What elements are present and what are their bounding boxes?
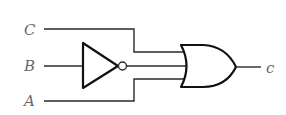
not-gate-bubble (119, 62, 127, 70)
wire-c (44, 29, 186, 52)
input-label-a: A (22, 92, 35, 110)
circuit-diagram: C B A c (0, 0, 286, 115)
not-gate-triangle (83, 43, 118, 88)
input-label-b: B (23, 57, 35, 75)
input-label-c: C (24, 21, 36, 39)
or-gate (181, 45, 236, 87)
not-gate (83, 43, 127, 88)
wire-a (44, 79, 186, 101)
output-label: c (266, 59, 275, 77)
